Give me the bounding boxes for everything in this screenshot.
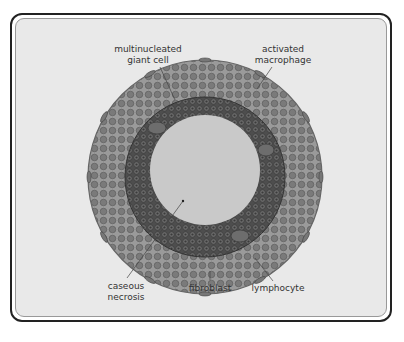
label-lymphocyte: lymphocyte xyxy=(248,283,308,294)
label-multinucleated-giant-cell: multinucleated giant cell xyxy=(108,44,188,66)
label-activated-macrophage: activated macrophage xyxy=(243,44,323,66)
caseous-necrosis-center xyxy=(150,115,260,225)
label-fibroblast: fibroblast xyxy=(180,283,240,294)
label-caseous-necrosis: caseous necrosis xyxy=(96,281,156,303)
